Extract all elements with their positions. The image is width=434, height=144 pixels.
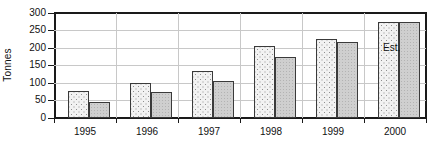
- x-tick-mark-5: [364, 118, 365, 123]
- category-separator-3: [240, 13, 241, 118]
- x-tick-mark-4: [302, 118, 303, 123]
- y-axis-tick-labels: 300 250 200 150 100 50 0: [0, 0, 46, 144]
- bar-1998-series-2: [275, 57, 296, 118]
- bar-1997-series-2: [213, 81, 234, 118]
- x-tick-mark-6: [426, 118, 427, 123]
- category-separator-4: [302, 13, 303, 118]
- x-tick-label-1995: 1995: [57, 126, 113, 137]
- estimate-annotation: Est.: [383, 43, 400, 53]
- x-tick-mark-0: [54, 118, 55, 123]
- x-tick-label-1996: 1996: [119, 126, 175, 137]
- y-tick-label-300: 300: [2, 8, 46, 18]
- bar-chart-figure: Tonnes 300 250 200 150 100 50 0: [0, 0, 434, 144]
- bar-1996-series-2: [151, 92, 172, 118]
- y-tick-label-250: 250: [2, 25, 46, 35]
- category-separator-1: [116, 13, 117, 118]
- x-tick-mark-1: [116, 118, 117, 123]
- bar-2000-series-2: [399, 22, 420, 118]
- plot-area: Est.: [54, 13, 426, 118]
- category-separator-5: [364, 13, 365, 118]
- bar-1999-series-2: [337, 42, 358, 118]
- category-separator-2: [178, 13, 179, 118]
- x-tick-mark-3: [240, 118, 241, 123]
- x-tick-mark-2: [178, 118, 179, 123]
- y-tick-label-50: 50: [2, 95, 46, 105]
- bar-1997-series-1: [192, 71, 213, 118]
- x-tick-label-2000: 2000: [367, 126, 423, 137]
- y-tick-label-100: 100: [2, 78, 46, 88]
- x-tick-label-1999: 1999: [305, 126, 361, 137]
- bar-2000-series-1: [378, 22, 399, 118]
- x-tick-label-1998: 1998: [243, 126, 299, 137]
- bar-1996-series-1: [130, 83, 151, 118]
- bar-1999-series-1: [316, 39, 337, 118]
- y-tick-label-0: 0: [2, 113, 46, 123]
- bar-1995-series-1: [68, 91, 89, 118]
- bar-1998-series-1: [254, 46, 275, 118]
- y-tick-label-200: 200: [2, 43, 46, 53]
- x-tick-label-1997: 1997: [181, 126, 237, 137]
- bar-1995-series-2: [89, 102, 110, 118]
- y-tick-label-150: 150: [2, 60, 46, 70]
